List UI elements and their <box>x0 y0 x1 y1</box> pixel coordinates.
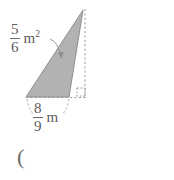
area-numerator: 5 <box>10 22 20 37</box>
base-denominator: 9 <box>33 119 43 134</box>
base-leader-right <box>62 99 69 115</box>
area-label: 5 6 m2 <box>10 22 40 56</box>
area-denominator: 6 <box>10 40 20 55</box>
area-unit-base: m <box>24 30 36 46</box>
area-unit-exponent: 2 <box>35 28 40 39</box>
base-label: 8 9 m <box>33 101 58 135</box>
base-numerator: 8 <box>33 101 43 116</box>
figure-canvas: 5 6 m2 8 9 m ( <box>0 0 174 180</box>
base-fraction: 8 9 <box>33 101 43 135</box>
base-unit: m <box>47 110 59 125</box>
base-unit-base: m <box>47 109 59 125</box>
right-angle-marker-inner <box>77 88 85 96</box>
right-angle-marker-icon <box>77 88 85 96</box>
area-unit: m2 <box>24 31 40 46</box>
stray-parenthesis: ( <box>17 146 24 168</box>
area-fraction: 5 6 <box>10 22 20 56</box>
